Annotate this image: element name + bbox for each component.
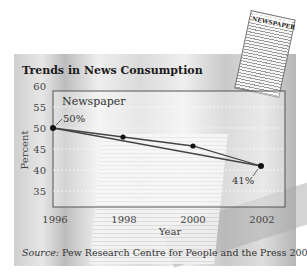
svg-text:55: 55 bbox=[33, 102, 46, 113]
svg-text:1998: 1998 bbox=[111, 214, 136, 225]
svg-text:50: 50 bbox=[33, 123, 46, 134]
svg-text:45: 45 bbox=[33, 144, 46, 155]
svg-text:1996: 1996 bbox=[42, 214, 67, 225]
annotation-start: 50% bbox=[63, 113, 85, 124]
series-label: Newspaper bbox=[62, 95, 126, 108]
y-axis-label: Percent bbox=[19, 131, 30, 170]
source-note: Source: Pew Research Centre for People a… bbox=[22, 247, 307, 258]
svg-text:2000: 2000 bbox=[180, 214, 205, 225]
svg-text:2002: 2002 bbox=[249, 214, 274, 225]
source-prefix: Source: bbox=[22, 247, 59, 258]
svg-text:60: 60 bbox=[33, 81, 46, 92]
svg-text:35: 35 bbox=[33, 186, 46, 197]
x-axis-label: Year bbox=[158, 226, 182, 237]
annotation-end: 41% bbox=[232, 175, 254, 186]
line-chart: 60 55 50 45 40 35 Percent 1996 1998 2000… bbox=[0, 0, 307, 276]
x-axis-ticks: 1996 1998 2000 2002 bbox=[42, 214, 274, 225]
y-axis-ticks: 60 55 50 45 40 35 bbox=[33, 81, 46, 197]
source-text: Pew Research Centre for People and the P… bbox=[59, 247, 307, 258]
svg-text:40: 40 bbox=[33, 165, 46, 176]
